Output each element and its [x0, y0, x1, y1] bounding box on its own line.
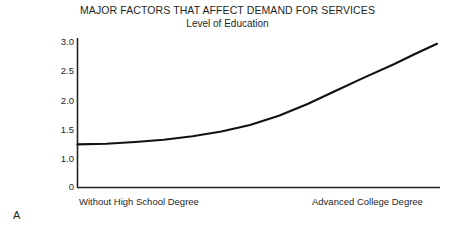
x-tick-label-right: Advanced College Degree [312, 196, 423, 207]
panel-label: A [13, 209, 20, 221]
data-line-series [78, 44, 438, 145]
chart-figure: MAJOR FACTORS THAT AFFECT DEMAND FOR SER… [0, 0, 455, 231]
x-tick-label-left: Without High School Degree [79, 196, 199, 207]
